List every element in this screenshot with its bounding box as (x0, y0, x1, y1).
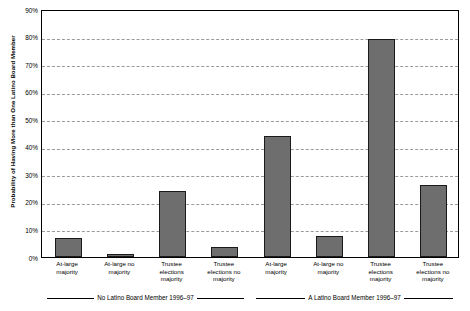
y-axis-tick-label: 20% (25, 199, 38, 206)
y-axis-tick-label: 30% (25, 172, 38, 179)
group-brackets: No Latino Board Member 1996–97A Latino B… (41, 291, 459, 307)
group-bracket-label: No Latino Board Member 1996–97 (94, 294, 197, 302)
bar (368, 39, 395, 257)
group-bracket-rule-right (404, 298, 453, 299)
bar (159, 191, 186, 257)
y-axis-tick-label: 60% (25, 89, 38, 96)
group-bracket: No Latino Board Member 1996–97 (47, 291, 244, 305)
bar (55, 238, 82, 257)
y-axis-tick-label: 0% (29, 255, 38, 262)
x-axis-tick-label: At-large majority (41, 260, 93, 275)
bar (316, 236, 343, 257)
x-axis-tick-label: At-large majority (250, 260, 302, 275)
bar (211, 247, 238, 257)
y-axis-tick-label: 90% (25, 7, 38, 14)
y-axis-tick-label: 50% (25, 117, 38, 124)
x-axis-tick-labels: At-large majorityAt-large no majorityTru… (41, 260, 459, 290)
y-axis-tick-label: 10% (25, 227, 38, 234)
bar (264, 136, 291, 257)
group-bracket-rule-left (256, 298, 305, 299)
y-axis-tick-labels: 0%10%20%30%40%50%60%70%80%90% (16, 10, 40, 258)
x-axis-tick-label: Trustee elections no majority (407, 260, 459, 283)
x-axis-tick-label: Trustee elections majority (146, 260, 198, 283)
group-bracket-rule-left (47, 298, 94, 299)
x-axis-tick-label: Trustee elections majority (355, 260, 407, 283)
group-bracket-rule-right (197, 298, 244, 299)
bar (420, 185, 447, 257)
group-bracket-label: A Latino Board Member 1996–97 (305, 294, 403, 302)
y-axis-tick-label: 70% (25, 62, 38, 69)
bar-series (42, 11, 458, 257)
y-axis-tick-label: 80% (25, 34, 38, 41)
bar-chart-figure: Probability of Having More than One Lati… (0, 0, 470, 311)
plot-area (41, 10, 459, 258)
y-axis-title-container: Probability of Having More than One Lati… (0, 0, 16, 260)
bar (107, 254, 134, 257)
y-axis-tick-label: 40% (25, 144, 38, 151)
x-axis-tick-label: At-large no majority (302, 260, 354, 275)
x-axis-tick-label: At-large no majority (93, 260, 145, 275)
group-bracket: A Latino Board Member 1996–97 (256, 291, 453, 305)
x-axis-tick-label: Trustee elections no majority (198, 260, 250, 283)
y-axis-title: Probability of Having More than One Lati… (9, 7, 16, 237)
